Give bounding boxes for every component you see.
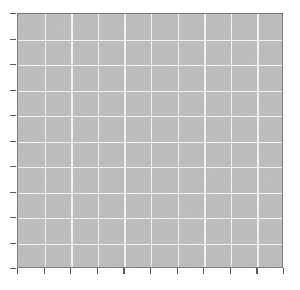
y-axis-tick	[10, 268, 16, 269]
y-axis-tick	[10, 115, 16, 116]
gridline-horizontal	[18, 244, 283, 245]
gridline-horizontal	[18, 193, 283, 194]
x-axis-tick	[70, 268, 71, 274]
gridline-vertical	[204, 14, 205, 268]
gridline-vertical	[231, 14, 232, 268]
gridline-horizontal	[18, 40, 283, 41]
y-axis-tick	[10, 217, 16, 218]
x-axis-tick	[203, 268, 204, 274]
gridline-horizontal	[18, 91, 283, 92]
x-axis-tick	[97, 268, 98, 274]
gridline-vertical	[45, 14, 46, 268]
gridline-vertical	[151, 14, 152, 268]
y-axis-tick	[10, 243, 16, 244]
x-axis-tick	[177, 268, 178, 274]
x-axis-tick	[150, 268, 151, 274]
x-axis-tick	[256, 268, 257, 274]
figure-canvas	[0, 0, 300, 290]
gridline-horizontal	[18, 218, 283, 219]
y-axis-tick	[10, 166, 16, 167]
gridline-vertical	[124, 14, 125, 268]
gridline-vertical	[178, 14, 179, 268]
y-axis-tick	[10, 90, 16, 91]
x-axis-tick	[123, 268, 124, 274]
gridline-vertical	[257, 14, 258, 268]
gridline-vertical	[71, 14, 72, 268]
gridline-horizontal	[18, 142, 283, 143]
y-axis-tick	[10, 141, 16, 142]
plot-panel[interactable]	[17, 13, 283, 268]
x-axis-ticks	[17, 268, 283, 278]
gridline-horizontal	[18, 167, 283, 168]
x-axis-tick	[44, 268, 45, 274]
x-axis-tick	[283, 268, 284, 274]
grid-lines	[18, 14, 283, 268]
x-axis-tick	[230, 268, 231, 274]
gridline-vertical	[98, 14, 99, 268]
panel-noise-texture	[18, 14, 283, 268]
y-axis-tick	[10, 13, 16, 14]
y-axis-tick	[10, 64, 16, 65]
y-axis-tick	[10, 192, 16, 193]
y-axis-tick	[10, 39, 16, 40]
gridline-horizontal	[18, 65, 283, 66]
x-axis-tick	[17, 268, 18, 274]
gridline-horizontal	[18, 116, 283, 117]
